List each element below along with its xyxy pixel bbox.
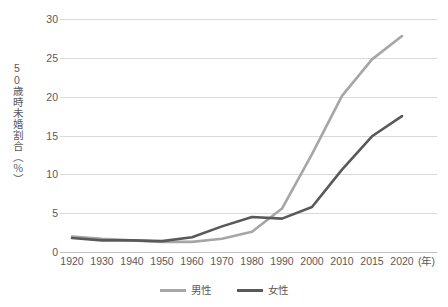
legend-label: 男性 (191, 284, 211, 296)
x-axis-tick-label: 1970 (210, 255, 233, 267)
y-axis-tick-label: 25 (32, 53, 58, 64)
y-axis-tick-label: 10 (32, 169, 58, 180)
chart-legend: 男性女性 (0, 280, 448, 300)
plot-area (60, 19, 437, 252)
x-axis-unit-label: (年) (418, 255, 435, 267)
x-axis-tick-label: 1930 (90, 255, 113, 267)
x-axis-tick-label: 1990 (270, 255, 293, 267)
x-axis-tick-label: 1920 (60, 255, 83, 267)
x-axis-tick-labels: 1920193019401950196019701980199020002010… (0, 255, 448, 271)
x-axis-tick-label: 1940 (120, 255, 143, 267)
y-axis-tick-label: 30 (32, 14, 58, 25)
x-axis-tick-label: 2010 (330, 255, 353, 267)
y-axis-tick-label: 20 (32, 92, 58, 103)
legend-item[interactable]: 男性 (160, 284, 211, 296)
legend-swatch-icon (160, 289, 186, 292)
x-axis-tick-label: 2000 (300, 255, 323, 267)
chart-container: 50歳時未婚割合（％） 051015202530 192019301940195… (0, 0, 448, 307)
series-line (72, 116, 402, 241)
x-axis-tick-label: 2020 (390, 255, 413, 267)
y-axis-tick-label: 5 (32, 208, 58, 219)
x-axis-tick-label: 1960 (180, 255, 203, 267)
series-lines (60, 19, 437, 252)
x-axis-line (60, 252, 437, 253)
x-axis-tick-label: 2015 (360, 255, 383, 267)
legend-swatch-icon (237, 289, 263, 292)
legend-item[interactable]: 女性 (237, 284, 288, 296)
x-axis-tick-label: 1980 (240, 255, 263, 267)
x-axis-tick-label: 1950 (150, 255, 173, 267)
series-line (72, 36, 402, 242)
y-axis-title: 50歳時未婚割合（％） (4, 8, 22, 238)
y-axis-tick-label: 15 (32, 131, 58, 142)
legend-label: 女性 (268, 284, 288, 296)
